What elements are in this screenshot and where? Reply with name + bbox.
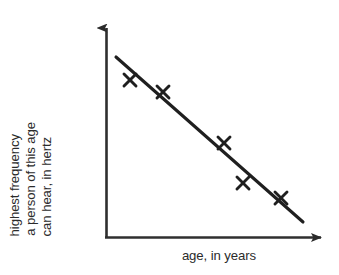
data-point-marker (157, 86, 169, 98)
data-point-marker (237, 177, 249, 189)
data-point-marker (218, 137, 230, 149)
chart-figure: highest frequency a person of this age c… (0, 0, 339, 275)
x-axis-label: age, in years (106, 248, 332, 263)
axis-lines (105, 28, 321, 238)
data-point-marker (124, 74, 136, 86)
plot-area (0, 0, 339, 275)
trend-line (116, 57, 303, 222)
